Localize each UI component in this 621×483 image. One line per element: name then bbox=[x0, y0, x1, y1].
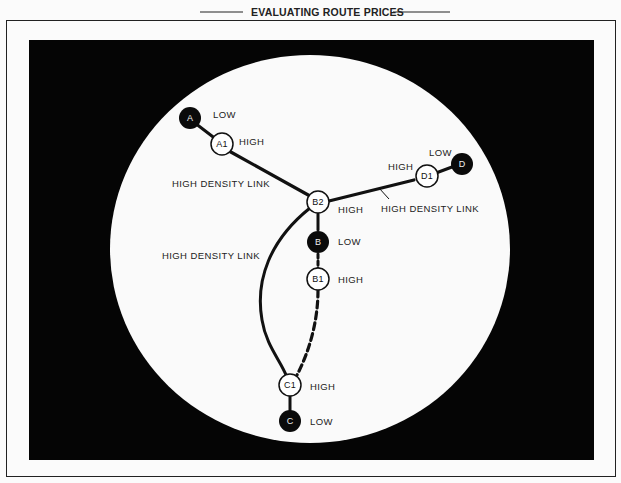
price-label-a1: HIGH bbox=[239, 136, 264, 147]
price-label-d1: HIGH bbox=[388, 161, 413, 172]
node-C: C bbox=[279, 410, 301, 432]
svg-text:C: C bbox=[287, 416, 294, 426]
node-B1: B1 bbox=[307, 268, 329, 290]
price-label-c1: HIGH bbox=[310, 381, 335, 392]
link-label-b2-c1: HIGH DENSITY LINK bbox=[162, 250, 260, 261]
node-D: D bbox=[451, 153, 473, 175]
svg-text:B: B bbox=[315, 237, 321, 247]
link-label-b2-d1: HIGH DENSITY LINK bbox=[381, 203, 479, 214]
svg-text:B1: B1 bbox=[312, 274, 323, 284]
node-B: B bbox=[307, 231, 329, 253]
node-A: A bbox=[179, 107, 201, 129]
price-label-b2: HIGH bbox=[338, 204, 363, 215]
node-D1: D1 bbox=[416, 165, 438, 187]
svg-text:A1: A1 bbox=[216, 139, 227, 149]
node-A1: A1 bbox=[211, 133, 233, 155]
route-diagram: A A1 B2 B B1 C1 C D1 D LOW HIGH HIGH LOW… bbox=[0, 0, 621, 483]
price-label-c: LOW bbox=[310, 416, 333, 427]
svg-text:D: D bbox=[459, 159, 466, 169]
svg-text:D1: D1 bbox=[421, 171, 433, 181]
price-label-d: LOW bbox=[429, 147, 452, 158]
node-B2: B2 bbox=[307, 191, 329, 213]
svg-text:B2: B2 bbox=[312, 197, 323, 207]
svg-text:A: A bbox=[187, 113, 193, 123]
price-label-b: LOW bbox=[338, 236, 361, 247]
svg-text:C1: C1 bbox=[284, 380, 296, 390]
link-label-a1-b2: HIGH DENSITY LINK bbox=[172, 178, 270, 189]
node-C1: C1 bbox=[279, 374, 301, 396]
price-label-a: LOW bbox=[213, 109, 236, 120]
price-label-b1: HIGH bbox=[338, 274, 363, 285]
